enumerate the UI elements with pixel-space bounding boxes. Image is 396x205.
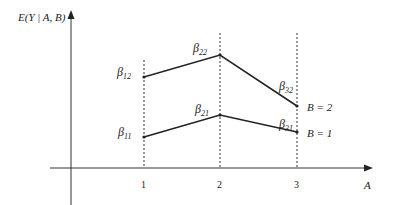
x-tick-1: 1 bbox=[141, 180, 146, 190]
x-tick-2: 2 bbox=[217, 180, 222, 190]
y-axis-label: E(Y | A, B) bbox=[18, 12, 65, 23]
beta-12-label: β12 bbox=[117, 66, 131, 81]
series-b2-label: B = 2 bbox=[307, 102, 332, 113]
x-axis-arrow-icon bbox=[364, 165, 373, 172]
x-axis-label: A bbox=[364, 180, 371, 191]
beta-32-label: β32 bbox=[279, 80, 293, 95]
beta-21-label: β21 bbox=[195, 103, 209, 118]
x-tick-3: 3 bbox=[294, 180, 299, 190]
interaction-diagram: E(Y | A, B) A 1 2 3 β12 β22 β32 β11 β21 … bbox=[0, 0, 396, 205]
beta-31-label: β31 bbox=[279, 118, 293, 133]
beta-11-label: β11 bbox=[118, 126, 131, 141]
beta-22-label: β22 bbox=[193, 42, 207, 57]
series-b1-label: B = 1 bbox=[307, 128, 332, 139]
y-axis-arrow-icon bbox=[68, 10, 75, 19]
